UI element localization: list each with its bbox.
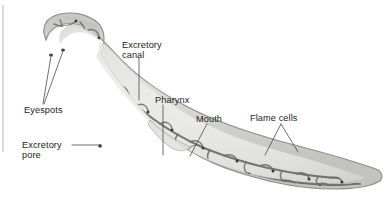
label-excretory-pore-line2: pore [22, 150, 41, 160]
label-excretory-pore-line1: Excretory [22, 140, 62, 150]
planarian-excretory-system-figure: Excretory canal Pharynx Mouth Flame cell… [0, 0, 389, 222]
label-excretory-canal-line1: Excretory [122, 40, 162, 50]
diagram-canvas: Excretory canal Pharynx Mouth Flame cell… [0, 0, 389, 222]
label-pharynx: Pharynx [155, 95, 190, 105]
label-flame-cells: Flame cells [250, 113, 298, 123]
planarian-body [44, 13, 382, 191]
label-excretory-canal-line2: canal [122, 50, 144, 60]
label-eyespots: Eyespots [24, 105, 63, 115]
label-mouth: Mouth [196, 114, 222, 124]
leader-eyespot-right [44, 51, 63, 104]
body-outline [44, 13, 382, 189]
